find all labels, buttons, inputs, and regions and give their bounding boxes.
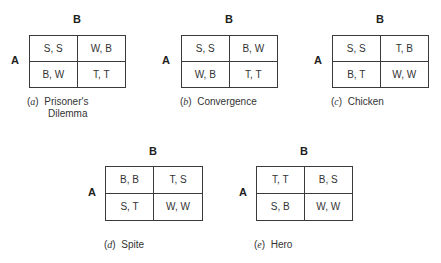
payoff-cell: B, S bbox=[305, 167, 353, 194]
payoff-cell: B, W bbox=[30, 62, 78, 88]
payoff-cell: W, W bbox=[381, 62, 429, 88]
payoff-cell: S, B bbox=[257, 194, 305, 221]
payoff-matrix: T, T B, S S, B W, W bbox=[256, 166, 353, 221]
payoff-cell: W, W bbox=[305, 194, 353, 221]
payoff-matrix: S, S B, W W, B T, T bbox=[181, 35, 278, 88]
payoff-cell: B, T bbox=[333, 62, 381, 88]
payoff-cell: T, T bbox=[230, 62, 278, 88]
payoff-matrix: S, S W, B B, W T, T bbox=[29, 35, 126, 88]
payoff-cell: S, T bbox=[106, 194, 154, 221]
payoff-cell: T, T bbox=[257, 167, 305, 194]
game-caption: (c) Chicken bbox=[331, 96, 384, 108]
caption-title: Prisoner's bbox=[44, 96, 88, 107]
payoff-cell: T, S bbox=[154, 167, 202, 194]
caption-title: Hero bbox=[271, 239, 293, 250]
column-player-label: B bbox=[143, 145, 163, 157]
payoff-cell: B, W bbox=[230, 36, 278, 62]
row-player-label: A bbox=[314, 54, 322, 66]
column-player-label: B bbox=[219, 13, 239, 25]
row-player-label: A bbox=[239, 186, 247, 198]
payoff-cell: W, W bbox=[154, 194, 202, 221]
caption-title-line2: Dilemma bbox=[27, 108, 88, 120]
payoff-cell: W, B bbox=[182, 62, 230, 88]
column-player-label: B bbox=[67, 13, 87, 25]
caption-letter: d bbox=[107, 239, 112, 250]
game-caption: (e) Hero bbox=[254, 239, 292, 251]
payoff-cell: W, B bbox=[78, 36, 126, 62]
row-player-label: A bbox=[11, 54, 19, 66]
caption-letter: b bbox=[183, 96, 188, 107]
payoff-cell: T, T bbox=[78, 62, 126, 88]
caption-title: Chicken bbox=[348, 96, 384, 107]
column-player-label: B bbox=[294, 145, 314, 157]
payoff-matrix: B, B T, S S, T W, W bbox=[105, 166, 203, 221]
caption-letter: a bbox=[30, 96, 35, 107]
row-player-label: A bbox=[162, 54, 170, 66]
caption-title: Spite bbox=[121, 239, 144, 250]
row-player-label: A bbox=[88, 186, 96, 198]
payoff-cell: S, S bbox=[182, 36, 230, 62]
payoff-cell: S, S bbox=[30, 36, 78, 62]
caption-title: Convergence bbox=[197, 96, 256, 107]
payoff-cell: T, B bbox=[381, 36, 429, 62]
game-caption: (a) Prisoner's Dilemma bbox=[27, 96, 88, 120]
caption-letter: c bbox=[334, 96, 338, 107]
column-player-label: B bbox=[370, 13, 390, 25]
payoff-cell: S, S bbox=[333, 36, 381, 62]
payoff-matrix: S, S T, B B, T W, W bbox=[332, 35, 429, 88]
caption-letter: e bbox=[257, 239, 261, 250]
payoff-cell: B, B bbox=[106, 167, 154, 194]
game-caption: (d) Spite bbox=[104, 239, 144, 251]
game-caption: (b) Convergence bbox=[180, 96, 257, 108]
